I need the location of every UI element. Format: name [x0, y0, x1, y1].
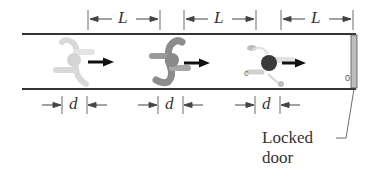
door-label-line1: Locked [262, 128, 313, 148]
door-label: Locked door [262, 128, 313, 168]
door-leader-line [336, 89, 354, 138]
door-label-line2: door [262, 148, 313, 168]
runner-position-3: c [244, 45, 292, 87]
label-d-1: d [69, 94, 78, 114]
door-knob-mark: 0 [345, 73, 350, 83]
runner-position-1 [56, 40, 92, 84]
locked-door [351, 35, 357, 88]
label-d-2: d [165, 94, 174, 114]
label-L-3: L [311, 8, 320, 28]
svg-text:c: c [244, 68, 249, 78]
label-L-2: L [214, 8, 223, 28]
runner-position-2 [152, 41, 188, 83]
velocity-arrow-1 [88, 58, 114, 67]
label-d-3: d [262, 94, 271, 114]
label-L-1: L [118, 8, 127, 28]
